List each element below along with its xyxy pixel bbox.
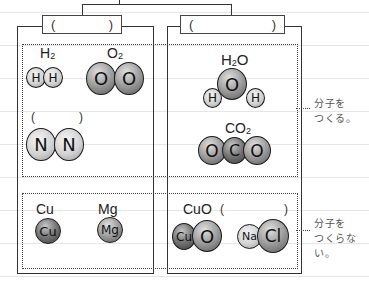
formula-cuo: CuO: [183, 201, 212, 217]
formula-o2: O2: [107, 45, 123, 61]
open-bracket: (: [189, 17, 193, 32]
side-label-non-molecule: 分子を つくらない。: [314, 216, 369, 261]
atom-mg: Mg: [97, 217, 123, 243]
formula-blank-cuo[interactable]: ( ): [220, 202, 288, 216]
formula-co2: CO2: [225, 120, 251, 136]
formula-blank-n2[interactable]: ( ): [31, 110, 83, 124]
non-molecule-label-connector: [296, 230, 310, 231]
atom-o: O: [86, 62, 116, 95]
molecule-label-connector: [296, 108, 310, 109]
atom-o: O: [243, 136, 271, 165]
atom-h: H: [43, 67, 63, 88]
atom-n: N: [54, 128, 84, 161]
formula-h2: H2: [40, 45, 55, 61]
atom-cl: Cl: [257, 219, 289, 253]
formula-mg: Mg: [98, 201, 117, 217]
open-bracket: (: [51, 17, 55, 32]
atom-o: O: [192, 220, 222, 252]
atom-n: N: [26, 128, 56, 161]
atom-cu: Cu: [35, 218, 61, 244]
left-header-blank[interactable]: ( ): [42, 15, 122, 34]
atom-o: O: [217, 68, 247, 100]
atom-h: H: [246, 88, 265, 108]
close-bracket: ): [272, 17, 276, 32]
formula-cu: Cu: [36, 201, 54, 217]
close-bracket: ): [109, 17, 113, 32]
formula-h2o: H2O: [221, 51, 249, 68]
right-header-blank[interactable]: ( ): [180, 15, 285, 34]
side-label-molecule: 分子を つくる。: [314, 96, 356, 126]
atom-o: O: [114, 62, 144, 95]
